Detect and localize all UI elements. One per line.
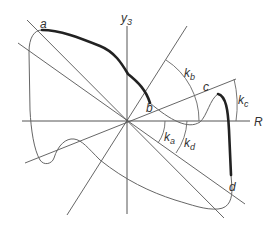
r-axis-label: R xyxy=(254,115,263,129)
polar-loop-diagram: a b c d R y3 ka kd kb kc xyxy=(0,0,279,226)
arc-kc xyxy=(234,79,237,121)
bold-segment-cd xyxy=(218,94,231,175)
angle-label-kc: kc xyxy=(238,93,249,109)
angle-label-ka: ka xyxy=(164,130,175,146)
point-label-b: b xyxy=(146,101,153,115)
point-label-c: c xyxy=(203,80,209,94)
bold-segment-ab xyxy=(42,30,150,103)
point-label-a: a xyxy=(40,17,47,31)
angle-label-kb: kb xyxy=(184,66,195,82)
y3-axis-label: y3 xyxy=(120,11,132,27)
point-label-d: d xyxy=(229,180,236,194)
ray-d xyxy=(18,43,245,204)
arc-kb xyxy=(166,60,199,121)
angle-label-kd: kd xyxy=(184,136,196,152)
